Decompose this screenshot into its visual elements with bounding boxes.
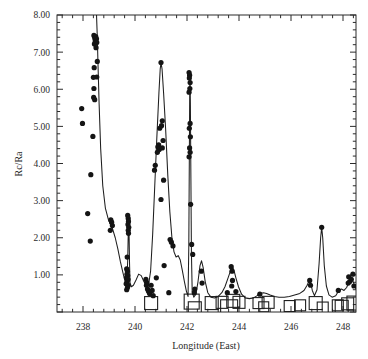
data-point-marker [229, 264, 234, 269]
data-point-marker [166, 290, 171, 295]
y-tick-label: 8.00 [33, 10, 50, 20]
data-point-marker [93, 45, 98, 50]
data-point-marker [108, 228, 113, 233]
data-point-marker [199, 280, 204, 285]
data-point-marker [192, 290, 197, 295]
y-tick-label: 2.00 [33, 233, 50, 243]
data-point-marker [91, 86, 96, 91]
data-point-marker [190, 252, 195, 257]
y-axis-title: Rc/Ra [13, 151, 24, 177]
data-point-marker [90, 134, 95, 139]
data-point-marker [125, 254, 130, 259]
data-point-marker [233, 289, 238, 294]
data-point-marker [162, 263, 167, 268]
data-point-marker [94, 74, 99, 79]
data-point-marker [307, 278, 312, 283]
x-tick-label: 248 [336, 322, 351, 332]
chart-figure: 1.002.003.004.005.006.007.008.00 2382402… [0, 0, 368, 359]
data-point-marker [150, 288, 155, 293]
data-point-marker [188, 150, 193, 155]
data-point-marker [159, 123, 164, 128]
x-tick-label: 244 [232, 322, 247, 332]
data-point-marker [188, 134, 193, 139]
data-point-marker [336, 288, 341, 293]
data-point-marker [88, 238, 93, 243]
data-point-marker [351, 283, 356, 288]
y-tick-label: 3.00 [33, 196, 50, 206]
data-point-marker [230, 278, 235, 283]
rc-ra-vs-longitude-scatter-plot: 1.002.003.004.005.006.007.008.00 2382402… [0, 0, 368, 359]
data-point-marker [308, 283, 313, 288]
data-point-marker [187, 76, 192, 81]
x-tick-label: 238 [76, 322, 91, 332]
data-point-marker [152, 168, 157, 173]
data-point-marker [161, 178, 166, 183]
data-point-marker [92, 65, 97, 70]
x-tick-label: 240 [128, 322, 143, 332]
data-point-marker [188, 202, 193, 207]
data-point-marker [188, 80, 193, 85]
data-point-marker [149, 283, 154, 288]
y-tick-label: 5.00 [33, 122, 50, 132]
data-point-marker [160, 145, 165, 150]
data-point-marker [126, 231, 131, 236]
data-point-marker [158, 197, 163, 202]
data-point-marker [350, 272, 355, 277]
data-point-marker [189, 242, 194, 247]
data-point-marker [155, 150, 160, 155]
data-point-marker [229, 283, 234, 288]
data-point-marker [186, 90, 191, 95]
data-point-marker [94, 40, 99, 45]
data-point-marker [80, 121, 85, 126]
y-tick-label: 6.00 [33, 85, 50, 95]
data-point-marker [160, 138, 165, 143]
data-point-marker [158, 60, 163, 65]
data-point-marker [151, 293, 156, 298]
data-point-marker [199, 269, 204, 274]
data-point-marker [349, 277, 354, 282]
data-point-marker [257, 292, 262, 297]
data-point-marker [124, 287, 129, 292]
data-point-marker [79, 106, 84, 111]
data-point-marker [110, 223, 115, 228]
data-point-marker [85, 211, 90, 216]
data-point-marker [319, 225, 324, 230]
x-tick-label: 242 [180, 322, 195, 332]
data-point-marker [187, 126, 192, 131]
y-tick-label: 1.00 [33, 270, 50, 280]
data-point-marker [170, 243, 175, 248]
x-tick-label: 246 [284, 322, 299, 332]
data-point-marker [188, 121, 193, 126]
x-axis-title: Longitude (East) [172, 340, 239, 352]
data-point-marker [95, 59, 100, 64]
data-point-marker [186, 154, 191, 159]
y-tick-label: 4.00 [33, 159, 50, 169]
data-point-marker [92, 97, 97, 102]
data-point-marker [88, 172, 93, 177]
y-tick-label: 7.00 [33, 48, 50, 58]
data-point-marker [160, 118, 165, 123]
data-point-marker [154, 275, 159, 280]
data-point-marker [153, 163, 158, 168]
data-point-marker [229, 269, 234, 274]
data-point-marker [187, 145, 192, 150]
data-point-marker [225, 290, 230, 295]
